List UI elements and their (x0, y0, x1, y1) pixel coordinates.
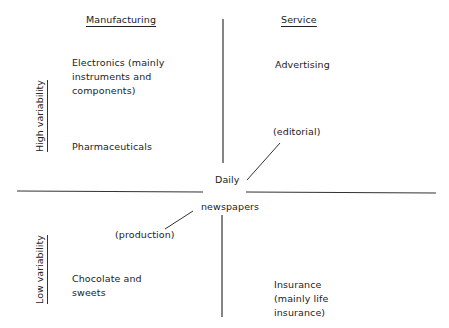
item-insurance: Insurance (mainly life insurance) (274, 278, 328, 320)
item-electronics: Electronics (mainly instruments and comp… (72, 56, 164, 98)
annotation-production: (production) (115, 228, 175, 242)
horizontal-axis-right (246, 192, 436, 193)
center-daily: Daily (215, 173, 240, 187)
header-manufacturing: Manufacturing (86, 13, 156, 27)
item-pharmaceuticals: Pharmaceuticals (72, 140, 152, 154)
item-advertising: Advertising (275, 58, 330, 72)
row-header-high-variability: High variability (34, 80, 48, 152)
annotation-editorial: (editorial) (273, 125, 321, 139)
axes (0, 0, 449, 328)
item-chocolate: Chocolate and sweets (72, 272, 142, 300)
header-service: Service (281, 13, 317, 27)
center-newspapers: newspapers (201, 200, 259, 214)
production-connector (165, 211, 193, 229)
horizontal-axis-left (17, 191, 203, 192)
editorial-connector (247, 143, 280, 180)
row-header-low-variability: Low variability (34, 235, 48, 304)
